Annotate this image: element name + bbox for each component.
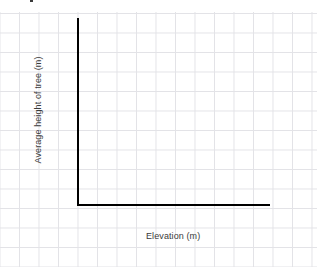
x-axis-line	[77, 204, 270, 206]
x-axis-title: Elevation (m)	[146, 231, 200, 242]
chart-canvas: Average height of tree (m) Elevation (m)	[0, 0, 317, 267]
y-axis-line	[77, 18, 79, 206]
graph-paper-grid	[0, 0, 317, 267]
grid-top-margin	[0, 0, 317, 12]
y-axis-title: Average height of tree (m)	[33, 57, 44, 164]
cropped-text-fragment-icon	[30, 0, 33, 2]
